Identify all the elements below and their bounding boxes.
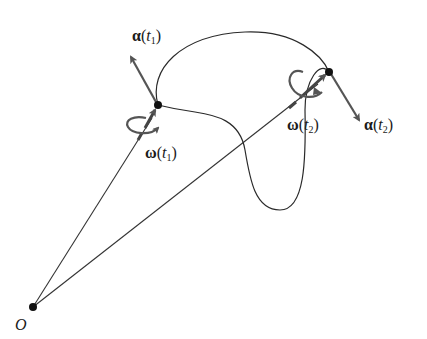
alpha-t2-label: α(t2) <box>364 116 393 135</box>
omega-t1-vector <box>145 110 155 128</box>
position-line-t2 <box>33 84 318 307</box>
alpha-t1-vector <box>131 57 156 102</box>
omega-t1-label: ω(t1) <box>145 144 177 163</box>
point-t2 <box>325 68 333 76</box>
alpha-t1-label: α(t1) <box>132 27 161 46</box>
origin-point <box>29 303 37 311</box>
point-t1 <box>154 101 162 109</box>
omega-t2-vector <box>300 75 325 98</box>
omega-t2-dash <box>289 102 296 108</box>
origin-label: O <box>15 316 27 333</box>
diagram-canvas: O α(t1) ω(t1) ω(t2) α(t2) <box>0 0 427 339</box>
rotation-arrow-t1-icon <box>127 117 158 133</box>
omega-t2-label: ω(t2) <box>287 116 319 135</box>
position-line-t1 <box>33 118 152 307</box>
alpha-t2-vector <box>331 74 359 120</box>
